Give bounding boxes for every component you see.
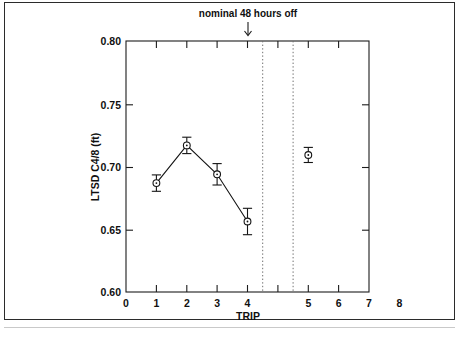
x-tick-label-7: 7 [366,297,372,309]
y-tick-label-4: 0.60 [101,286,122,298]
data-point-trip-3[interactable] [213,164,222,185]
right-axis-ticks [362,105,369,230]
series-line-main [156,145,247,221]
x-tick-label-3: 3 [214,297,220,309]
x-tick-label-6: 6 [336,297,342,309]
top-axis-ticks [156,41,338,48]
caption-divider [4,327,455,328]
data-point-trip-1[interactable] [152,175,161,191]
break-region-lines [263,41,293,292]
y-axis-title: LTSD C4/8 (ft) [89,133,101,202]
data-point-trip-5[interactable] [304,147,313,162]
x-axis-title: TRIP [236,310,260,322]
y-tick-label-2: 0.70 [101,161,122,173]
x-tick-label-5: 5 [305,297,311,309]
x-tick-label-1: 1 [153,297,159,309]
annotation-label: nominal 48 hours off [199,8,298,19]
down-arrow-icon [245,22,252,36]
caption-text [6,329,451,336]
x-tick-label-4: 4 [245,297,251,309]
bottom-axis-ticks [156,285,338,292]
chart-canvas: nominal 48 hours off [0,0,459,337]
data-point-trip-2[interactable] [182,137,191,153]
y-tick-label-3: 0.65 [101,224,122,236]
y-tick-label-0: 0.80 [101,35,122,47]
data-point-trip-4[interactable] [243,208,252,234]
left-axis-ticks [126,105,133,230]
x-tick-label-2: 2 [184,297,190,309]
plot-axes-box [126,41,369,292]
x-tick-label-8: 8 [396,297,402,309]
y-tick-label-1: 0.75 [101,99,122,111]
x-tick-label-0: 0 [123,297,129,309]
